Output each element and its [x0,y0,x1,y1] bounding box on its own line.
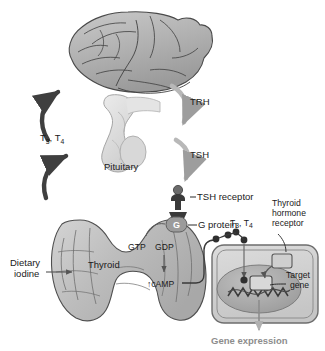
thyroid-hormone-receptor-label-line3: receptor [272,218,304,228]
dietary-iodine-label-line2: iodine [14,268,39,279]
target-gene-label-line1: Target [286,270,310,280]
target-gene-label-line2: gene [290,280,309,290]
gtp-label: GTP [128,242,146,252]
dietary-iodine-label-line1: Dietary [10,257,40,268]
thyroid-hormone-receptor-icon [272,254,292,268]
thyroid-label: Thyroid [88,259,120,270]
trh-label: TRH [190,96,210,107]
tsh-receptor-label: TSH receptor [197,191,254,202]
g-protein-letter: G [173,220,180,230]
tsh-label: TSH [190,149,209,160]
thyroid-hormone-receptor-label-line2: hormone [272,208,306,218]
gene-expression-label: Gene expression [211,335,288,346]
pituitary-label: Pituitary [104,161,139,172]
thyroid-axis-diagram: Pituitary TRH TSH T3, T4 Thyroid Dietary… [0,0,325,351]
g-protein-icon: G [166,217,187,232]
thyroid-hormone-receptor-label-line1: Thyroid [272,198,301,208]
bound-hormone-molecule [240,276,247,283]
gdp-label: GDP [155,242,174,252]
receptor-hormone-complex [250,276,272,290]
camp-label: ↑cAMP [147,279,174,289]
